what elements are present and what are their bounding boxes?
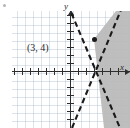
graph-figure: (3, 4) y x bbox=[0, 0, 130, 128]
boundary-lines bbox=[12, 11, 130, 128]
vertex-point-marker bbox=[92, 37, 97, 42]
x-axis-label: x bbox=[120, 63, 124, 72]
boundary-line-1 bbox=[72, 11, 123, 128]
point-label: (3, 4) bbox=[27, 43, 49, 53]
y-axis-label: y bbox=[64, 2, 68, 11]
plot-area bbox=[12, 11, 130, 128]
boundary-line-2 bbox=[68, 11, 120, 128]
scan-speck bbox=[3, 4, 6, 7]
